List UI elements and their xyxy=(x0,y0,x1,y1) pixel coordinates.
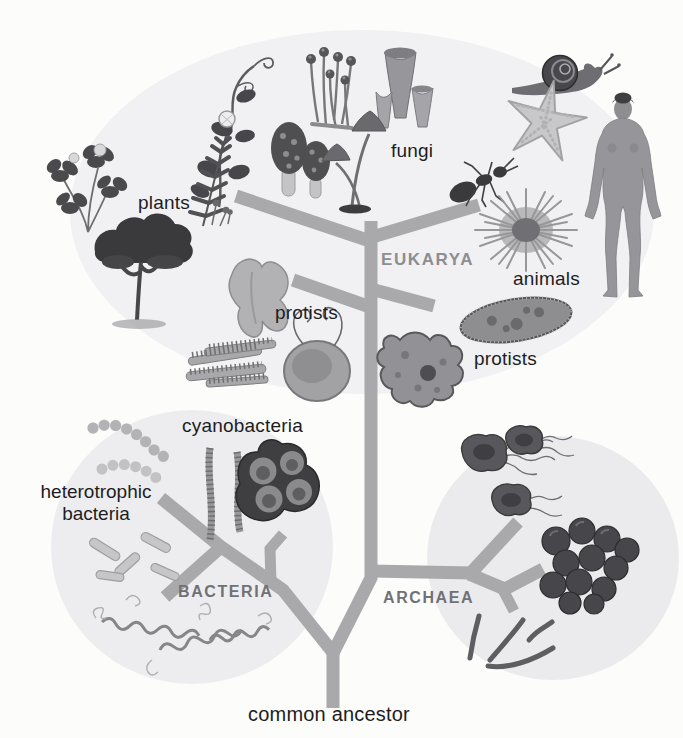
branch-archaea-main xyxy=(371,571,472,573)
sea-urchin-illustration xyxy=(475,189,577,271)
label-common-ancestor: common ancestor xyxy=(248,704,410,725)
tree-of-life-artwork xyxy=(0,0,683,738)
label-protists-left: protists xyxy=(275,303,338,323)
amoeba-illustration xyxy=(377,333,463,407)
tree-of-life-figure: plants fungi animals protists protists c… xyxy=(0,0,683,738)
label-plants: plants xyxy=(138,193,190,213)
label-heterotrophic-line1: heterotrophic xyxy=(24,481,168,503)
label-heterotrophic-bacteria: heterotrophic bacteria xyxy=(24,481,168,525)
domain-label-bacteria: BACTERIA xyxy=(178,583,273,601)
label-heterotrophic-line2: bacteria xyxy=(24,503,168,525)
domain-label-eukarya: EUKARYA xyxy=(381,250,474,270)
label-cyanobacteria: cyanobacteria xyxy=(182,416,303,436)
label-fungi: fungi xyxy=(391,141,433,161)
label-protists-right: protists xyxy=(474,349,537,369)
archaea-halo xyxy=(427,436,679,680)
label-animals: animals xyxy=(513,269,580,289)
domain-label-archaea: ARCHAEA xyxy=(383,589,474,607)
